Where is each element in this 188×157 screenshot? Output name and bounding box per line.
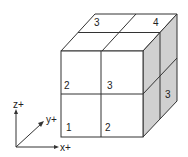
y-axis-label: y+ — [46, 114, 57, 125]
cube-diagram: 3 4 2 3 1 2 3 z+ y+ x+ — [0, 0, 188, 157]
front-label-lower-right: 2 — [105, 122, 111, 133]
front-label-upper-left: 2 — [64, 80, 70, 91]
front-label-upper-right: 3 — [107, 80, 113, 91]
top-label-back-right: 4 — [153, 17, 159, 28]
top-label-back-left: 3 — [94, 17, 100, 28]
y-axis — [16, 124, 41, 147]
x-arrow-icon — [54, 145, 59, 149]
front-label-lower-left: 1 — [66, 122, 72, 133]
right-label: 3 — [165, 89, 171, 100]
x-axis-label: x+ — [60, 142, 71, 153]
z-axis-label: z+ — [13, 99, 24, 110]
